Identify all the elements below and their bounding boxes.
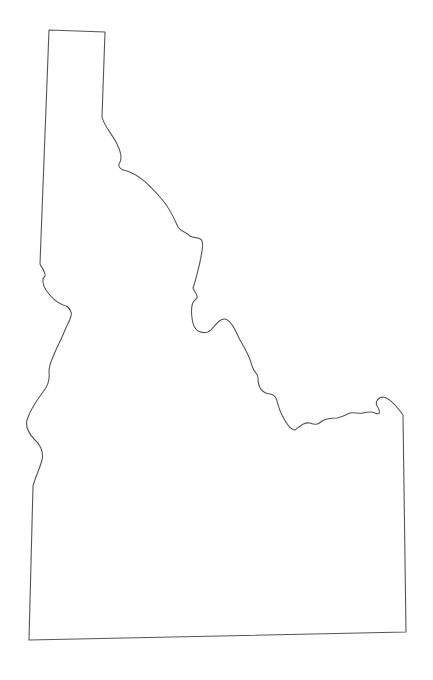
idaho-state-outline: [27, 30, 406, 640]
idaho-outline-map: [0, 0, 433, 680]
map-canvas: Idaho: [0, 0, 433, 680]
